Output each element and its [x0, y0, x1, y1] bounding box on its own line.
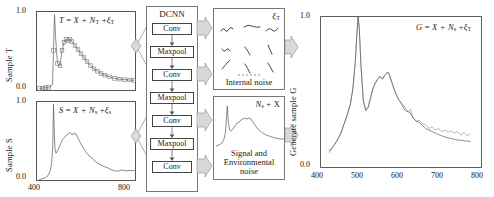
generate-ylabel: Generate sample G: [288, 26, 298, 156]
generate-series-noisy: [329, 17, 471, 153]
sample-s-plot-area: S = X + Ns +ξs: [36, 101, 136, 181]
generate-curve-svg: [320, 16, 482, 168]
sample-t-eq-lhs: T: [59, 15, 64, 25]
generate-eq-lhs: G: [416, 22, 422, 32]
generate-series-line: [329, 17, 471, 152]
generate-xtick-600: 600: [391, 171, 403, 180]
panel-sample-t: Sample T 1.0 0.0: [4, 6, 136, 94]
figure-root: Sample T 1.0 0.0: [0, 0, 494, 197]
sample-s-equation: S = X + Ns +ξs: [59, 105, 111, 115]
sample-s-eq-rhs: X + N: [73, 105, 95, 115]
signal-noise-n-sub: s: [261, 103, 264, 109]
sample-t-equation: T = X + NT +ξT: [59, 15, 114, 25]
sample-t-ytick-top: 1.0: [16, 6, 26, 15]
dcnn-internal-arrows: [147, 7, 199, 193]
sample-t-eq-sub1: T: [95, 19, 99, 25]
generate-plot-area: G = X + Ns +ξT: [320, 16, 482, 168]
internal-noise-ellipsis: [238, 74, 259, 75]
panel-dcnn: DCNN Conv Maxpool Conv Maxpool Conv Maxp…: [146, 6, 198, 192]
sample-s-series-line: [39, 104, 135, 179]
generate-xtick-400: 400: [311, 171, 323, 180]
generate-equation: G = X + Ns +ξT: [416, 22, 471, 32]
sample-t-eq-rhs: X + N: [74, 15, 96, 25]
generate-xtick-800: 800: [471, 171, 483, 180]
sample-s-eq-sub2: s: [109, 109, 112, 115]
sample-t-ytick-bottom: 0.0: [16, 82, 26, 91]
sample-t-eq-sub2: T: [111, 19, 115, 25]
sample-t-plot-area: T = X + NT +ξT: [36, 11, 136, 91]
sample-s-ylabel: Sample S: [4, 110, 14, 172]
sample-s-eq-sub1: s: [95, 109, 98, 115]
sample-s-eq-lhs: S: [59, 105, 63, 115]
sample-s-xtick-400: 400: [28, 183, 40, 192]
sample-t-ylabel: Sample T: [4, 20, 14, 82]
sample-s-ytick-top: 1.0: [16, 96, 26, 105]
panel-generate-sample-g: Generate sample G 1.0 0.0 G = X + Ns +ξT…: [272, 6, 490, 194]
generate-axes: [321, 17, 482, 168]
generate-ytick-bottom: 0.0: [300, 160, 310, 169]
generate-xtick-700: 700: [431, 171, 443, 180]
generate-eq-rhs: X + N: [432, 22, 454, 32]
panel-sample-s: Sample S 1.0 0.0 S = X + Ns +ξs 400 800: [4, 96, 136, 192]
generate-eq-sub2: T: [468, 26, 472, 32]
sample-s-ytick-bottom: 0.0: [16, 172, 26, 181]
generate-xtick-500: 500: [351, 171, 363, 180]
dcnn-to-noise-arrows: [197, 6, 213, 192]
generate-ytick-top: 1.0: [300, 11, 310, 20]
generate-eq-sub1: s: [454, 26, 457, 32]
